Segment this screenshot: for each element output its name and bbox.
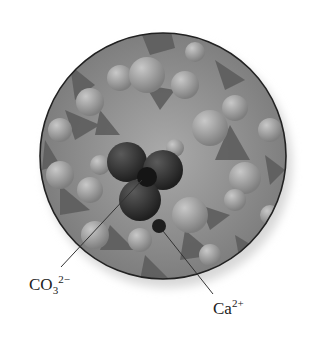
carbonate-label-charge: 2− <box>58 273 70 285</box>
calcium-ion <box>152 219 166 233</box>
carbonate-label-base: CO <box>29 275 53 294</box>
carbonate-label: CO32− <box>29 274 70 296</box>
calcium-label: Ca2+ <box>213 298 244 317</box>
calcium-label-charge: 2+ <box>232 297 244 309</box>
carbonate-label-subscript: 3 <box>53 284 59 296</box>
calcium-label-base: Ca <box>213 299 232 318</box>
